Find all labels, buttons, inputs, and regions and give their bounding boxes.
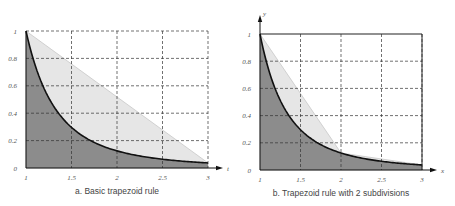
- x-axis-arrow-icon: [430, 168, 437, 172]
- x-tick-label: 1: [258, 176, 262, 184]
- x-axis-arrow-icon: [216, 166, 223, 170]
- trapezoid-figure: 11.522.5300.20.40.60.81ta. Basic trapezo…: [0, 0, 455, 206]
- chart-caption: a. Basic trapezoid rule: [75, 186, 159, 196]
- y-tick-label: 0.2: [8, 137, 17, 145]
- x-tick-label: 3: [419, 176, 424, 184]
- x-tick-label: 1.5: [296, 176, 305, 184]
- y-tick-label: 0: [248, 167, 252, 175]
- x-tick-label: 2: [339, 176, 343, 184]
- chart-caption: b. Trapezoid rule with 2 subdivisions: [273, 188, 410, 198]
- y-tick-label: 0.4: [242, 112, 251, 120]
- x-axis-label: t: [227, 165, 230, 173]
- x-tick-label: 3: [205, 174, 210, 182]
- x-tick-label: 2: [115, 174, 119, 182]
- y-tick-label: 0.8: [242, 58, 251, 66]
- x-tick-label: 1.5: [67, 174, 76, 182]
- x-tick-label: 2.5: [158, 174, 167, 182]
- y-tick-label: 1: [14, 28, 18, 36]
- y-axis-arrow-icon: [258, 15, 262, 22]
- y-tick-label: 0.2: [242, 139, 251, 147]
- plot-a: 11.522.5300.20.40.60.81ta. Basic trapezo…: [8, 28, 230, 197]
- x-tick-label: 2.5: [377, 176, 386, 184]
- y-tick-label: 0.4: [8, 110, 17, 118]
- y-tick-label: 0.6: [242, 85, 251, 93]
- y-tick-label: 0.8: [8, 55, 17, 63]
- plot-b: 11.522.5300.20.40.60.81xyb. Trapezoid ru…: [242, 10, 445, 198]
- y-tick-label: 0.6: [8, 82, 17, 90]
- y-tick-label: 0: [14, 165, 18, 173]
- x-tick-label: 1: [24, 174, 28, 182]
- y-axis-label: y: [262, 10, 267, 18]
- y-tick-label: 1: [248, 31, 252, 39]
- x-axis-label: x: [440, 167, 445, 175]
